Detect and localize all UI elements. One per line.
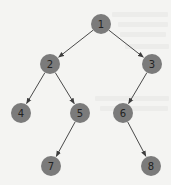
tree-node-3: 3 — [142, 54, 162, 74]
tree-node-7: 7 — [41, 156, 61, 176]
tree-node-1: 1 — [91, 14, 111, 34]
node-label: 7 — [48, 161, 54, 172]
edge-3-6 — [129, 73, 147, 104]
node-label: 4 — [18, 108, 24, 119]
node-label: 2 — [47, 59, 53, 70]
tree-node-6: 6 — [113, 103, 133, 123]
tree-edges — [27, 30, 147, 156]
tree-node-5: 5 — [70, 103, 90, 123]
tree-node-2: 2 — [40, 54, 60, 74]
node-label: 5 — [77, 108, 83, 119]
node-label: 8 — [148, 161, 154, 172]
edge-2-4 — [27, 73, 45, 104]
edge-1-2 — [59, 30, 93, 57]
tree-node-8: 8 — [141, 156, 161, 176]
node-label: 1 — [98, 19, 104, 30]
node-label: 6 — [120, 108, 126, 119]
node-label: 3 — [149, 59, 155, 70]
edge-1-3 — [109, 30, 143, 57]
edge-5-7 — [56, 122, 75, 157]
edge-2-5 — [55, 73, 74, 104]
edge-6-8 — [128, 122, 146, 156]
tree-nodes: 12345678 — [11, 14, 162, 176]
binary-tree-diagram: 12345678 — [0, 0, 171, 185]
tree-node-4: 4 — [11, 103, 31, 123]
